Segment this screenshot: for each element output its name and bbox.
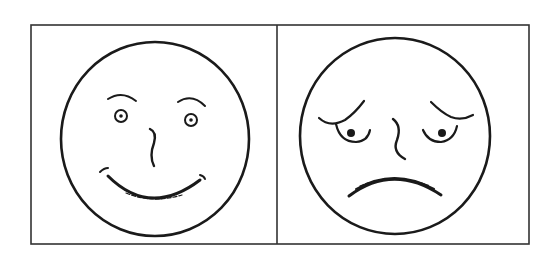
faces-illustration xyxy=(0,0,558,262)
faces-figure xyxy=(0,0,558,262)
